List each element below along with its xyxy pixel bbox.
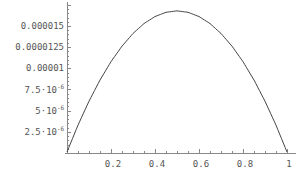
- y-tick-label: 0.0000125: [15, 42, 64, 52]
- line-chart: 2.5·10-65·10-67.5·10-60.000010.00001250.…: [0, 0, 307, 172]
- y-tick-exponent: -6: [57, 104, 65, 111]
- y-tick-label: 7.5·10: [24, 85, 57, 95]
- y-tick-exponent: -6: [57, 83, 65, 90]
- y-tick-exponent: -6: [57, 125, 65, 132]
- x-axis-ticks: 0.20.40.60.81: [105, 159, 292, 169]
- x-tick-label: 0.6: [193, 159, 209, 169]
- y-tick-label: 5·10: [35, 106, 57, 116]
- x-tick-label: 1: [286, 159, 291, 169]
- y-axis-ticks: 2.5·10-65·10-67.5·10-60.000010.00001250.…: [15, 21, 64, 137]
- data-curve: [67, 11, 287, 152]
- y-tick-label: 0.000015: [21, 21, 64, 31]
- y-tick-label: 2.5·10: [24, 127, 57, 137]
- x-tick-label: 0.8: [237, 159, 253, 169]
- axes: [65, 2, 296, 154]
- x-tick-label: 0.4: [149, 159, 165, 169]
- y-tick-label: 0.00001: [26, 63, 64, 73]
- x-tick-label: 0.2: [105, 159, 121, 169]
